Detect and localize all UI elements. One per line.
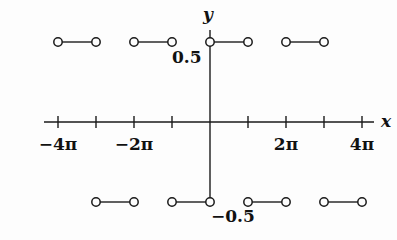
open-endpoint-marker-7-right: [358, 198, 366, 206]
x-tick-label-2: 2π: [274, 136, 298, 153]
open-endpoint-marker-3-left: [282, 38, 290, 46]
y-value-label-0: 0.5: [172, 49, 202, 66]
open-endpoint-marker-5-right: [206, 198, 214, 206]
x-axis-label: x: [381, 113, 391, 130]
open-endpoint-marker-5-left: [168, 198, 176, 206]
open-endpoint-marker-4-right: [130, 198, 138, 206]
x-tick-label-0: −4π: [39, 136, 78, 153]
open-endpoint-marker-4-left: [92, 198, 100, 206]
open-endpoint-marker-7-left: [320, 198, 328, 206]
y-axis-label: y: [203, 6, 213, 23]
open-endpoint-marker-2-left: [206, 38, 214, 46]
open-endpoint-marker-6-right: [282, 198, 290, 206]
y-value-label-1: −0.5: [211, 208, 255, 225]
open-endpoint-marker-1-left: [130, 38, 138, 46]
plot-canvas: [0, 0, 397, 240]
open-endpoint-marker-3-right: [320, 38, 328, 46]
open-endpoint-marker-6-left: [244, 198, 252, 206]
x-tick-label-3: 4π: [350, 136, 374, 153]
open-endpoint-marker-0-left: [54, 38, 62, 46]
open-endpoint-marker-0-right: [92, 38, 100, 46]
open-endpoint-marker-2-right: [244, 38, 252, 46]
open-endpoint-marker-1-right: [168, 38, 176, 46]
x-tick-label-1: −2π: [115, 136, 154, 153]
plot-figure: y x −4π−2π2π4π0.5−0.5: [0, 0, 397, 240]
